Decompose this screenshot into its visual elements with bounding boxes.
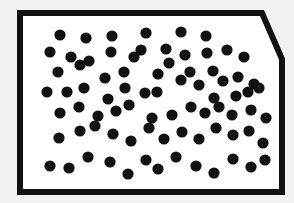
dot-marker [152, 68, 163, 79]
dot-marker [54, 107, 65, 118]
dot-marker [92, 110, 103, 121]
dot-marker [245, 161, 256, 172]
dot-marker [210, 122, 221, 133]
dot-marker [242, 86, 253, 97]
dot-marker [245, 104, 256, 115]
dot-marker [226, 109, 237, 120]
dot-marker [54, 29, 65, 40]
dot-marker [143, 122, 154, 133]
dot-marker [128, 51, 139, 62]
dot-marker [158, 133, 169, 144]
dot-marker [185, 101, 196, 112]
dot-marker [102, 93, 113, 104]
dot-marker [146, 112, 157, 123]
dot-marker [125, 135, 136, 146]
dot-density-figure: Random dot pattern in beveled rectangula… [0, 0, 294, 203]
dot-marker [163, 57, 174, 68]
dot-marker [139, 87, 150, 98]
dot-marker [61, 86, 72, 97]
dot-marker [193, 133, 204, 144]
dot-marker [122, 168, 133, 179]
dot-marker [110, 105, 121, 116]
dot-marker [213, 101, 224, 112]
dot-marker [80, 32, 91, 43]
figure-page: Random dot pattern in beveled rectangula… [0, 0, 294, 203]
dot-marker [207, 65, 218, 76]
dot-marker [199, 107, 210, 118]
dot-marker [176, 126, 187, 137]
dot-marker [65, 51, 76, 62]
dot-marker [160, 43, 171, 54]
dot-marker [52, 66, 63, 77]
dot-marker [151, 86, 162, 97]
dot-marker [232, 71, 243, 82]
dot-marker [257, 137, 268, 148]
dot-marker [253, 82, 264, 93]
dot-marker [152, 163, 163, 174]
dot-marker [44, 160, 55, 171]
dot-marker [74, 125, 85, 136]
dot-marker [82, 151, 93, 162]
dot-marker [175, 74, 186, 85]
dot-marker [104, 156, 115, 167]
dot-marker [105, 46, 116, 57]
dot-marker [227, 129, 238, 140]
dot-marker [44, 46, 55, 57]
dot-marker [175, 26, 186, 37]
dot-marker [106, 30, 117, 41]
dot-marker [230, 90, 241, 101]
dot-marker [200, 30, 211, 41]
dot-marker [107, 128, 118, 139]
dot-marker [260, 112, 271, 123]
dot-marker [118, 66, 129, 77]
dot-marker [140, 27, 151, 38]
dot-marker [78, 82, 89, 93]
dot-marker [184, 66, 195, 77]
dot-marker [201, 47, 212, 58]
dot-marker [41, 86, 52, 97]
dot-marker [166, 109, 177, 120]
dot-marker [193, 79, 204, 90]
dot-marker [243, 125, 254, 136]
dot-marker [73, 101, 84, 112]
dot-marker [99, 72, 110, 83]
dot-marker [179, 49, 190, 60]
dot-marker [259, 154, 270, 165]
dot-marker [217, 75, 228, 86]
dot-marker [170, 151, 181, 162]
dot-marker [74, 59, 85, 70]
dot-marker [53, 132, 64, 143]
dot-marker [208, 167, 219, 178]
dot-marker [227, 153, 238, 164]
dot-marker [238, 51, 249, 62]
dot-marker [63, 162, 74, 173]
dot-marker [119, 82, 130, 93]
dot-marker [190, 160, 201, 171]
dot-marker [221, 44, 232, 55]
dot-marker [140, 154, 151, 165]
dot-marker [89, 120, 100, 131]
dot-marker [123, 99, 134, 110]
